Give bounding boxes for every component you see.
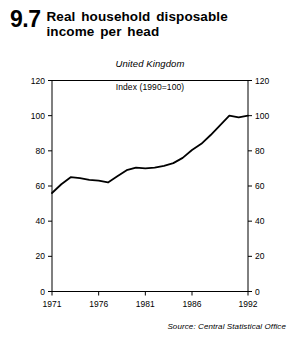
x-tick-label: 1981	[136, 299, 155, 309]
x-tick-label: 1971	[43, 299, 62, 309]
figure-header: 9.7 Real household disposable income per…	[10, 8, 290, 39]
x-tick-label: 1986	[183, 299, 202, 309]
y-tick-label-left: 120	[31, 76, 45, 86]
x-tick-label: 1992	[239, 299, 258, 309]
figure-number: 9.7	[10, 8, 46, 31]
y-tick-label-right: 20	[255, 251, 265, 261]
y-tick-label-left: 0	[40, 287, 45, 297]
line-chart-svg: 020406080100120 020406080100120 19711976…	[0, 58, 298, 308]
figure-panel: 9.7 Real household disposable income per…	[0, 0, 298, 346]
y-axis-right: 020406080100120	[248, 76, 269, 297]
y-tick-label-right: 0	[255, 287, 260, 297]
y-tick-label-left: 40	[36, 216, 46, 226]
y-tick-label-right: 120	[255, 76, 269, 86]
y-tick-label-right: 60	[255, 181, 265, 191]
x-axis: 19711976198119861992	[43, 292, 258, 309]
y-tick-label-right: 40	[255, 216, 265, 226]
y-tick-label-left: 80	[36, 146, 46, 156]
y-tick-label-right: 80	[255, 146, 265, 156]
y-tick-label-left: 100	[31, 111, 45, 121]
y-axis-left: 020406080100120	[31, 76, 52, 297]
page-title: Real household disposable income per hea…	[46, 8, 261, 39]
data-series-line	[52, 116, 248, 193]
y-tick-label-right: 100	[255, 111, 269, 121]
y-tick-label-left: 60	[36, 181, 46, 191]
plot-frame	[52, 81, 248, 292]
x-tick-label: 1976	[89, 299, 108, 309]
chart-container: United Kingdom Index (1990=100) 02040608…	[0, 58, 298, 308]
y-tick-label-left: 20	[36, 251, 46, 261]
source-note: Source: Central Statistical Office	[167, 322, 286, 332]
